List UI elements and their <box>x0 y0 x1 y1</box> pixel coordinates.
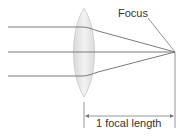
focus-label: Focus <box>118 7 148 19</box>
arrow-left-icon <box>85 114 89 118</box>
arrow-right-icon <box>170 114 174 118</box>
lens-diagram <box>0 0 184 136</box>
focal-length-label: 1 focal length <box>96 117 161 129</box>
focus-leader-line <box>148 18 175 52</box>
